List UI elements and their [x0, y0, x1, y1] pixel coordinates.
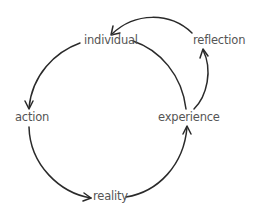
edge-experience-reflection: [194, 50, 208, 109]
node-individual: individual: [84, 35, 138, 47]
edge-reality-experience: [126, 127, 187, 197]
node-reflection: reflection: [193, 35, 245, 47]
node-experience: experience: [158, 112, 220, 124]
node-reality: reality: [93, 191, 128, 203]
node-action: action: [15, 112, 49, 124]
edge-reflection-individual: [112, 17, 192, 34]
edge-individual-experience: [133, 41, 186, 109]
edge-individual-action: [29, 43, 80, 108]
cycle-diagram: individual reflection action experience …: [0, 0, 254, 217]
edge-action-reality: [29, 127, 91, 198]
